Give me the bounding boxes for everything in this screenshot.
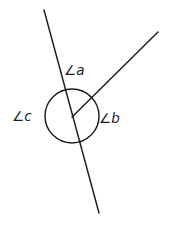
angle-diagram-figure: ∠a ∠b ∠c <box>0 0 171 230</box>
upper-right-ray <box>72 32 158 117</box>
angle-label-a: ∠a <box>64 64 85 78</box>
transversal-line <box>44 10 99 213</box>
angle-label-c: ∠c <box>12 110 32 124</box>
angle-label-b: ∠b <box>99 112 120 126</box>
